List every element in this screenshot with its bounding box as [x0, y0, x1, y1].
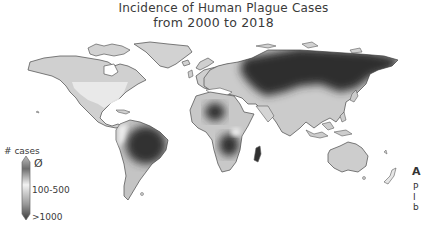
legend-label-mid: 100-500: [32, 185, 70, 195]
world-map: [0, 28, 419, 238]
cutoff-text-b: b: [413, 202, 419, 213]
australia: [328, 142, 368, 172]
new-zealand: [384, 168, 396, 184]
cutoff-text-a: A: [412, 166, 421, 177]
legend-colorbar: [22, 156, 30, 220]
africa: [190, 92, 254, 172]
legend-label-zero: Ø: [34, 157, 43, 170]
madagascar: [254, 146, 261, 162]
legend-title: # cases: [4, 146, 40, 156]
map-title: Incidence of Human Plague Cases: [14, 2, 425, 15]
legend-label-high: >1000: [32, 212, 62, 222]
